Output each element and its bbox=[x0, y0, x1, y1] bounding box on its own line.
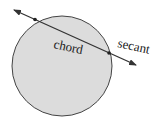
chord-endpoint-right bbox=[107, 51, 111, 55]
chord-endpoint-left bbox=[33, 18, 37, 22]
secant-label: secant bbox=[116, 35, 151, 57]
chord-secant-diagram: chord secant bbox=[0, 0, 156, 119]
